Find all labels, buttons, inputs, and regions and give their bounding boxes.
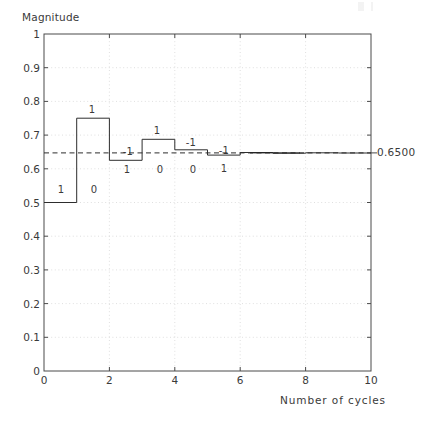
grid-horizontal <box>44 68 371 338</box>
grid-vertical <box>109 34 305 371</box>
x-tick-marks <box>109 34 305 371</box>
approximation-step-curve <box>44 118 371 202</box>
plot-canvas <box>0 0 427 423</box>
chart-figure: Magnitude Number of cycles 0.6500 1 0.9 … <box>0 0 427 423</box>
